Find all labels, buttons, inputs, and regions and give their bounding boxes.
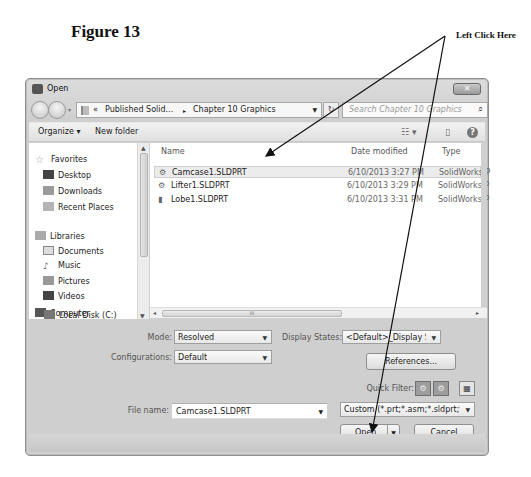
scroll-down-icon[interactable]: ▼ [140,312,145,319]
navigation-pane: ☆Favorites Desktop Downloads Recent Plac… [29,143,149,319]
address-bar[interactable]: « Published Solid... ▸ Chapter 10 Graphi… [76,102,322,118]
help-icon[interactable]: ? [467,127,478,138]
navigation-bar: ▾ « Published Solid... ▸ Chapter 10 Grap… [29,100,485,120]
dialog-title: Open [47,84,68,93]
change-view-icon[interactable]: ☷ ▾ [401,127,416,137]
references-button[interactable]: References... [366,353,456,370]
title-bar: Open ✕ [26,79,488,99]
solidworks-app-icon [32,84,43,94]
horizontal-scroll-thumb[interactable]: III [162,310,342,317]
display-states-dropdown[interactable]: <Default>_Display St▼ [342,330,441,344]
music-icon: ♪ [43,261,54,270]
pictures-icon [43,276,54,285]
file-row-lifter1[interactable]: ⚙ Lifter1.SLDPRT 6/10/2013 3:29 PM Solid… [154,180,481,192]
quick-filter-label: Quick Filter: [362,384,414,393]
sidebar-item-documents[interactable]: Documents [43,246,104,256]
organize-button[interactable]: Organize ▾ [38,127,80,136]
mode-label: Mode: [126,333,172,342]
sidebar-item-videos[interactable]: Videos [43,291,85,301]
sidebar-item-music[interactable]: ♪Music [43,261,81,270]
command-toolbar: Organize ▾ New folder ☷ ▾ ▯ ? [29,122,485,142]
sidebar-item-desktop[interactable]: Desktop [43,170,91,180]
file-list-vertical-scrollbar[interactable] [481,143,487,307]
search-input[interactable]: Search Chapter 10 Graphics ⌕ [342,102,488,118]
preview-pane-icon[interactable]: ▯ [445,127,450,137]
sidebar-scroll-thumb[interactable] [140,153,148,257]
back-button[interactable] [31,101,49,119]
sidebar-group-libraries[interactable]: Libraries [35,231,85,241]
file-row-lobe1[interactable]: ▮ Lobe1.SLDPRT 6/10/2013 3:31 PM SolidWo… [154,194,481,206]
file-list: Name Date modified Type ⚙ Camcase1.SLDPR… [150,143,481,307]
search-icon[interactable]: ⌕ [478,104,483,115]
column-header-date-modified[interactable]: Date modified [351,147,408,156]
documents-icon [43,246,54,255]
display-states-label: Display States: [282,333,340,342]
desktop-icon [43,170,54,179]
refresh-button[interactable]: ↻ [323,102,339,118]
libraries-icon [35,231,46,240]
search-placeholder: Search Chapter 10 Graphics [349,105,462,114]
sidebar-item-recent-places[interactable]: Recent Places [43,202,114,212]
breadcrumb-separator-icon[interactable]: ▸ [183,107,186,114]
close-button[interactable]: ✕ [453,83,481,95]
chevron-down-icon: ▼ [465,406,470,413]
breadcrumb-published-solid[interactable]: Published Solid... [105,105,173,114]
filter-parts-toggle[interactable]: ⚙ [415,381,431,396]
breadcrumb-chapter-10-graphics[interactable]: Chapter 10 Graphics [193,105,276,114]
scroll-right-icon[interactable]: ▸ [476,309,479,316]
sidebar-item-downloads[interactable]: Downloads [43,186,102,196]
dialog-bottom-strip [29,434,485,452]
part-file-icon: ⚙ [158,181,165,190]
chevron-down-icon: ▼ [431,334,436,341]
folder-icon [81,106,89,115]
recent-pages-dropdown-icon[interactable]: ▾ [68,106,71,113]
file-name-input[interactable]: Camcase1.SLDPRT ▼ [172,403,327,419]
file-name-label: File name: [121,406,169,415]
chevron-down-icon: ▼ [262,334,267,341]
filter-assemblies-toggle[interactable]: ⚙ [433,381,449,396]
new-folder-button[interactable]: New folder [95,127,138,136]
scroll-left-icon[interactable]: ◂ [153,309,156,316]
sidebar-item-local-disk[interactable]: Local Disk (C:) [44,310,117,320]
scroll-up-icon[interactable]: ▲ [141,144,146,151]
recent-places-icon [43,202,54,211]
part-file-icon: ⚙ [159,168,166,177]
configurations-dropdown[interactable]: Default▼ [174,350,272,364]
column-header-type[interactable]: Type [442,147,460,156]
callout-label: Left Click Here [456,30,516,40]
open-dialog: Open ✕ ▾ « Published Solid... ▸ Chapter … [25,78,489,456]
sidebar-item-pictures[interactable]: Pictures [43,276,90,286]
downloads-icon [43,186,54,195]
local-disk-icon [44,310,55,319]
star-icon: ☆ [35,154,47,163]
part-file-icon: ▮ [158,195,162,204]
chevron-down-icon: ▼ [262,354,267,361]
file-list-horizontal-scrollbar[interactable]: ◂ III ▸ [150,307,487,318]
breadcrumb-overflow[interactable]: « [93,105,98,114]
file-row-camcase1[interactable]: ⚙ Camcase1.SLDPRT 6/10/2013 3:27 PM Soli… [154,166,481,178]
sidebar-group-favorites[interactable]: ☆Favorites [35,154,87,164]
column-header-name[interactable]: Name [161,147,185,156]
figure-title: Figure 13 [71,22,140,42]
configurations-label: Configurations: [96,353,172,362]
videos-icon [43,291,54,300]
filter-drawings-toggle[interactable]: ▦ [459,381,475,396]
address-dropdown-icon[interactable]: ▼ [312,106,317,113]
sidebar-scrollbar[interactable]: ▲ [137,143,149,319]
mode-dropdown[interactable]: Resolved▼ [174,330,272,344]
forward-button[interactable] [48,101,66,119]
file-type-dropdown[interactable]: Custom (*.prt;*.asm;*.sldprt;*.sl▼ [340,402,475,417]
chevron-down-icon[interactable]: ▼ [318,408,323,415]
